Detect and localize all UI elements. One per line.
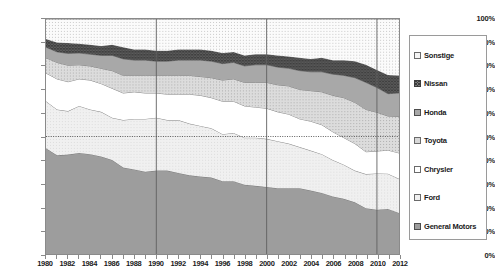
plot-area [45,18,400,255]
legend-item-nissan[interactable]: Nissan [414,70,483,99]
legend-item-toyota[interactable]: Toyota [414,127,483,156]
legend-item-label: Toyota [424,136,447,145]
chart-legend: SonstigeNissanHondaToyotaChryslerFordGen… [409,35,487,240]
legend-item-chrysler[interactable]: Chrysler [414,155,483,184]
area-series-svg [46,19,399,254]
stacked-area-chart: 0%10%20%30%40%50%60%70%80%90%100% [0,0,495,280]
legend-item-general-motors[interactable]: General Motors [414,212,483,241]
y-axis-tick-label: 0% [455,251,495,260]
legend-item-honda[interactable]: Honda [414,98,483,127]
legend-item-sonstige[interactable]: Sonstige [414,41,483,70]
legend-swatch-icon [414,80,421,87]
legend-swatch-icon [414,109,421,116]
x-axis-tick-label: 2012 [385,259,415,268]
legend-item-label: Honda [424,108,446,117]
legend-swatch-icon [414,52,421,59]
legend-item-ford[interactable]: Ford [414,184,483,213]
legend-swatch-icon [414,223,421,230]
legend-item-label: Ford [424,193,440,202]
legend-item-label: Sonstige [424,51,454,60]
legend-item-label: Nissan [424,79,447,88]
legend-swatch-icon [414,166,421,173]
legend-item-label: Chrysler [424,165,453,174]
legend-swatch-icon [414,194,421,201]
legend-item-label: General Motors [424,222,476,231]
legend-swatch-icon [414,137,421,144]
y-axis-tick-label: 100% [455,14,495,23]
